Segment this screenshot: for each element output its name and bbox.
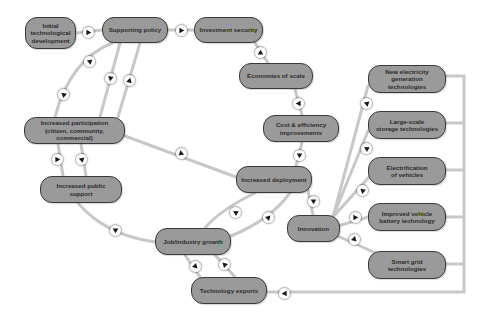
node-label: Electrification of vehicles bbox=[387, 164, 428, 179]
causal-loop-diagram: Initial technological developmentSupport… bbox=[0, 0, 487, 321]
node-economies: Economies of scale bbox=[239, 63, 313, 89]
arrow-deployment-to-jobs-icon bbox=[230, 207, 241, 218]
arrow-innovation-to-battery-icon bbox=[350, 212, 361, 223]
arrow-policy-participation-outer-2-icon bbox=[58, 89, 69, 100]
arrow-exports-to-jobs-icon bbox=[219, 259, 230, 270]
node-label: Increased public support bbox=[45, 182, 117, 197]
connector-public-jobs bbox=[78, 203, 155, 242]
arrow-innovation-to-smartgrid-icon bbox=[349, 234, 360, 245]
triangle-arrow-icon bbox=[178, 150, 185, 157]
node-innovation: Innovation bbox=[287, 215, 340, 242]
node-investment: Investment security bbox=[194, 17, 263, 43]
node-cost: Cost & efficiency improvements bbox=[263, 115, 339, 142]
triangle-arrow-icon bbox=[295, 100, 302, 107]
triangle-arrow-icon bbox=[221, 261, 228, 268]
arrow-investment-to-economies-icon bbox=[255, 47, 266, 58]
node-label: Increased participation (citizen, commun… bbox=[29, 119, 120, 141]
arrow-jobs-to-deployment-icon bbox=[263, 212, 274, 223]
triangle-arrow-icon bbox=[351, 236, 358, 243]
node-label: Investment security bbox=[199, 26, 257, 33]
triangle-arrow-icon bbox=[359, 187, 366, 194]
node-label: Economies of scale bbox=[247, 72, 305, 79]
arrow-initial-to-policy-icon bbox=[83, 27, 94, 38]
triangle-arrow-icon bbox=[192, 263, 199, 270]
triangle-arrow-icon bbox=[126, 77, 133, 84]
triangle-arrow-icon bbox=[310, 198, 317, 205]
arrow-participation-to-public-icon bbox=[52, 154, 63, 165]
node-ev: Electrification of vehicles bbox=[368, 157, 446, 185]
node-label: Initial technological development bbox=[31, 22, 71, 44]
node-exports: Technology exports bbox=[191, 277, 267, 304]
node-label: Cost & efficiency improvements bbox=[276, 121, 326, 136]
arrow-innovation-to-ev-icon bbox=[357, 185, 368, 196]
node-label: Job/industry growth bbox=[163, 238, 222, 245]
triangle-arrow-icon bbox=[363, 100, 370, 107]
node-storage: Large-scale storage technologies bbox=[368, 111, 446, 139]
node-participation: Increased participation (citizen, commun… bbox=[24, 117, 125, 144]
triangle-arrow-icon bbox=[352, 214, 359, 221]
arrow-public-to-participation-icon bbox=[76, 154, 87, 165]
arrow-participation-to-policy-icon bbox=[124, 75, 135, 86]
node-label: Improved vehicle battery technology bbox=[379, 210, 434, 225]
node-newgen: New electricity generation technologies bbox=[368, 65, 446, 93]
node-label: Increased deployment bbox=[241, 176, 306, 183]
node-deployment: Increased deployment bbox=[236, 166, 312, 193]
triangle-arrow-icon bbox=[107, 75, 114, 82]
triangle-arrow-icon bbox=[296, 152, 303, 159]
arrow-techs-to-exports-icon bbox=[279, 288, 290, 299]
arrow-policy-participation-outer-1-icon bbox=[84, 56, 95, 67]
node-battery: Improved vehicle battery technology bbox=[368, 203, 446, 231]
triangle-arrow-icon bbox=[281, 290, 288, 297]
arrow-innovation-to-storage-icon bbox=[361, 143, 372, 154]
arrow-policy-to-participation-mid-icon bbox=[105, 73, 116, 84]
arrow-economies-to-cost-icon bbox=[293, 98, 304, 109]
node-label: Supporting policy bbox=[109, 26, 162, 33]
node-initial: Initial technological development bbox=[25, 17, 76, 49]
node-public: Increased public support bbox=[40, 176, 122, 203]
node-label: Smart grid technologies bbox=[388, 258, 426, 273]
arrow-participation-to-deployment-icon bbox=[176, 148, 187, 159]
node-smartgrid: Smart grid technologies bbox=[368, 251, 446, 279]
triangle-arrow-icon bbox=[54, 156, 61, 163]
triangle-arrow-icon bbox=[85, 29, 92, 36]
arrow-cost-to-deployment-icon bbox=[294, 150, 305, 161]
node-jobs: Job/industry growth bbox=[155, 228, 231, 255]
triangle-arrow-icon bbox=[78, 156, 85, 163]
triangle-arrow-icon bbox=[86, 58, 93, 65]
triangle-arrow-icon bbox=[363, 145, 370, 152]
triangle-arrow-icon bbox=[112, 227, 119, 234]
node-label: Innovation bbox=[298, 225, 329, 232]
arrow-innovation-to-newgen-icon bbox=[361, 98, 372, 109]
arrow-jobs-to-exports-icon bbox=[190, 261, 201, 272]
arrow-public-to-jobs-icon bbox=[110, 225, 121, 236]
triangle-arrow-icon bbox=[257, 49, 264, 56]
arrow-deployment-to-innovation-icon bbox=[308, 196, 319, 207]
arrow-policy-to-investment-icon bbox=[176, 25, 187, 36]
node-label: New electricity generation technologies bbox=[373, 68, 441, 90]
triangle-arrow-icon bbox=[232, 209, 239, 216]
node-label: Large-scale storage technologies bbox=[376, 118, 438, 133]
node-label: Technology exports bbox=[200, 287, 258, 294]
node-policy: Supporting policy bbox=[102, 17, 168, 43]
triangle-arrow-icon bbox=[60, 91, 67, 98]
triangle-arrow-icon bbox=[265, 214, 272, 221]
triangle-arrow-icon bbox=[178, 27, 185, 34]
